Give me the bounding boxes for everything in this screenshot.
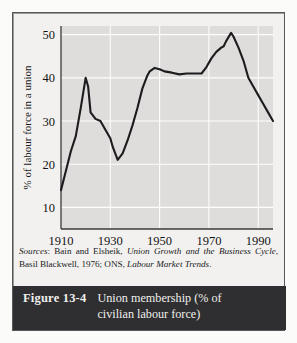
svg-text:1970: 1970 <box>196 234 221 245</box>
sources-period: . <box>209 259 211 269</box>
figure-container: 1020304050 19101930195019701990 % of lab… <box>12 12 285 331</box>
y-axis-title: % of labour force in a union <box>21 65 33 190</box>
y-tick-labels: 1020304050 <box>43 28 56 215</box>
svg-text:50: 50 <box>43 28 56 42</box>
x-tick-labels: 19101930195019701990 <box>49 234 271 245</box>
sources-note: Sources: Bain and Elsheik, Union Growth … <box>19 245 278 270</box>
caption-line-2: civilian labour force) <box>97 307 200 321</box>
svg-text:40: 40 <box>43 71 56 85</box>
figure-caption: Union membership (% of civilian labour f… <box>97 291 221 322</box>
caption-bar: Figure 13-4 Union membership (% of civil… <box>13 286 286 330</box>
svg-text:10: 10 <box>43 201 56 215</box>
svg-text:30: 30 <box>43 115 56 129</box>
sources-text-1: Bain and Elsheik, <box>54 246 127 256</box>
svg-text:1930: 1930 <box>98 234 123 245</box>
svg-text:1910: 1910 <box>49 234 74 245</box>
line-chart-svg: 1020304050 19101930195019701990 % of lab… <box>13 13 286 245</box>
svg-text:20: 20 <box>43 158 56 172</box>
chart-plot-area: 1020304050 19101930195019701990 % of lab… <box>13 13 286 245</box>
svg-text:1950: 1950 <box>147 234 172 245</box>
caption-line-1: Union membership (% of <box>97 291 221 305</box>
sources-title-2: Labour Market Trends <box>127 259 209 269</box>
figure-number: Figure 13-4 <box>23 291 97 306</box>
sources-title-1: Union Growth and the Business Cycle <box>127 246 276 256</box>
sources-label: Sources <box>19 246 47 256</box>
svg-text:1990: 1990 <box>246 234 271 245</box>
